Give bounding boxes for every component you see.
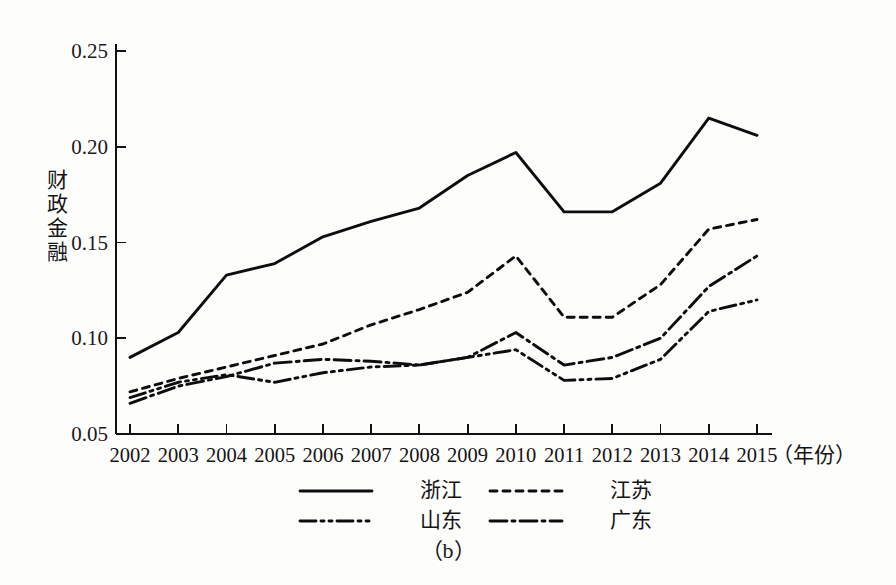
x-tick-label: 2003 <box>158 444 199 466</box>
y-tick-label: 0.25 <box>71 39 108 63</box>
figure-container: 财 政 金 融 0.050.100.150.200.25 20022003200… <box>0 0 896 585</box>
x-tick-label: 2008 <box>399 444 440 466</box>
y-tick-label: 0.20 <box>71 135 108 159</box>
x-tick-label: 2007 <box>351 444 392 466</box>
x-tick-label: 2013 <box>640 444 681 466</box>
line-chart: 0.050.100.150.200.25 2002200320042005200… <box>0 0 896 585</box>
x-tick-label: 2006 <box>302 444 343 466</box>
x-tick-label: 2012 <box>592 444 633 466</box>
x-tick-label: 2005 <box>254 444 295 466</box>
x-tick-label: 2010 <box>495 444 536 466</box>
chart-legend: 浙江江苏山东广东 <box>300 478 652 532</box>
x-tick-group <box>130 424 757 434</box>
y-tick-label: 0.15 <box>71 231 108 255</box>
series-line-山东 <box>130 300 757 398</box>
legend-label-浙江: 浙江 <box>420 478 462 502</box>
series-line-浙江 <box>130 118 757 357</box>
legend-label-广东: 广东 <box>610 508 652 532</box>
x-tick-label: 2014 <box>688 444 729 466</box>
y-tick-group <box>116 51 126 434</box>
x-tick-label: 2004 <box>206 444 247 466</box>
x-axis-label: （年份） <box>772 443 856 467</box>
y-tick-label-group: 0.050.100.150.200.25 <box>71 39 108 446</box>
x-tick-label: 2009 <box>447 444 488 466</box>
series-group <box>130 118 757 403</box>
figure-caption: （b） <box>421 538 476 563</box>
legend-label-江苏: 江苏 <box>610 478 652 502</box>
series-line-江苏 <box>130 220 757 392</box>
x-tick-label-group: 2002200320042005200620072008200920102011… <box>110 444 778 466</box>
x-tick-label: 2011 <box>544 444 584 466</box>
x-tick-label: 2002 <box>110 444 151 466</box>
legend-label-山东: 山东 <box>420 508 462 532</box>
y-tick-label: 0.05 <box>71 422 108 446</box>
y-tick-label: 0.10 <box>71 326 108 350</box>
